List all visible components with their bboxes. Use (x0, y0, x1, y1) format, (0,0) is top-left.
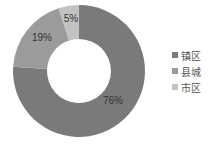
donut-chart: 76%19%5% (0, 0, 160, 144)
legend-swatch (172, 84, 178, 90)
legend-label: 县城 (181, 64, 201, 79)
legend-item-city: 市区 (172, 79, 201, 95)
legend-label: 镇区 (181, 48, 201, 63)
legend-label: 市区 (181, 80, 201, 95)
legend-swatch (172, 52, 178, 58)
slice-label: 5% (64, 13, 79, 24)
slice-label: 76% (103, 95, 123, 106)
slice-label: 19% (32, 32, 52, 43)
legend-item-county: 县城 (172, 63, 201, 79)
legend: 镇区 县城 市区 (172, 47, 201, 95)
legend-swatch (172, 68, 178, 74)
legend-item-town: 镇区 (172, 47, 201, 63)
